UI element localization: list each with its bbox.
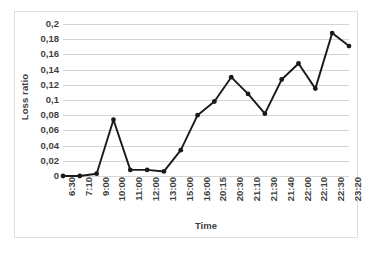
data-point-marker [279, 77, 284, 82]
y-axis-tick-label: 0,16 [29, 49, 59, 59]
x-axis-tick-label: 21:10 [252, 177, 262, 219]
x-axis-tick-label: 21:30 [269, 177, 279, 219]
data-point-marker [145, 168, 150, 173]
x-axis-tick-label: 7:10 [84, 177, 94, 219]
plot-area [63, 24, 349, 176]
y-axis-tick-label: 0,14 [29, 65, 59, 75]
data-point-marker [347, 44, 352, 49]
y-axis-tick-label: 0,12 [29, 80, 59, 90]
data-point-marker [212, 99, 217, 104]
data-point-marker [178, 148, 183, 153]
series-line [63, 33, 349, 176]
data-point-marker [195, 113, 200, 118]
data-point-marker [296, 61, 301, 66]
x-axis-tick-label: 13:00 [168, 177, 178, 219]
data-point-marker [162, 169, 167, 174]
x-axis-tick-label: 9:00 [101, 177, 111, 219]
x-axis-tick-label: 23:20 [353, 177, 363, 219]
x-axis-tick-label: 6:30 [67, 177, 77, 219]
y-axis-tick-label: 0,1 [29, 95, 59, 105]
y-axis-tick-label: 0,08 [29, 110, 59, 120]
data-point-marker [229, 75, 234, 80]
data-point-marker [330, 31, 335, 36]
y-axis-tick-label: 0,04 [29, 141, 59, 151]
x-axis-tick-label: 21:40 [286, 177, 296, 219]
x-axis-tick-label: 22:10 [319, 177, 329, 219]
x-axis-tick-label: 12:00 [151, 177, 161, 219]
x-axis-tick-labels: 6:307:109:0010:0011:0012:0013:0015:0016:… [63, 178, 349, 220]
x-axis-tick-label: 10:00 [117, 177, 127, 219]
x-axis-tick-label: 11:00 [134, 177, 144, 219]
x-axis-title: Time [63, 220, 349, 231]
data-point-marker [94, 171, 99, 176]
x-axis-tick-label: 22:30 [336, 177, 346, 219]
chart-figure: Loss ratio 00,020,040,060,080,10,120,140… [14, 11, 358, 238]
data-point-marker [313, 86, 318, 91]
y-axis-tick-label: 0,2 [29, 19, 59, 29]
x-axis-tick-label: 20:30 [235, 177, 245, 219]
y-axis-tick-label: 0,18 [29, 34, 59, 44]
line-series-loss-ratio [63, 24, 349, 176]
data-point-marker [246, 92, 251, 97]
y-axis-tick-label: 0 [29, 171, 59, 181]
x-axis-tick-label: 15:00 [185, 177, 195, 219]
data-point-marker [111, 117, 116, 122]
y-axis-tick-labels: 00,020,040,060,080,10,120,140,160,180,2 [29, 24, 59, 176]
x-axis-tick-label: 20:15 [218, 177, 228, 219]
data-point-marker [262, 111, 267, 116]
y-axis-tick-label: 0,02 [29, 156, 59, 166]
y-axis-tick-label: 0,06 [29, 125, 59, 135]
x-axis-tick-label: 16:00 [202, 177, 212, 219]
data-point-marker [128, 168, 133, 173]
x-axis-tick-label: 22:00 [303, 177, 313, 219]
